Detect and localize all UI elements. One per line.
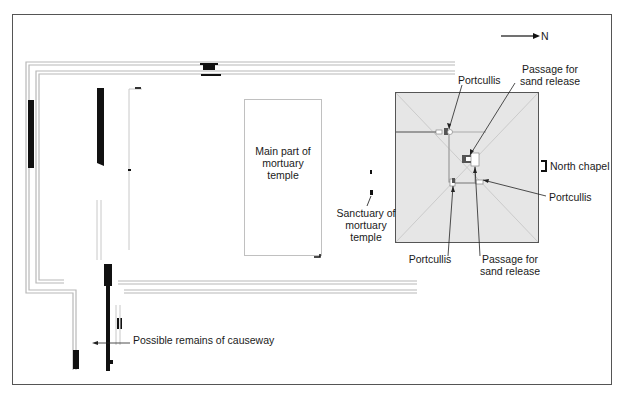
north-arrow-icon — [501, 33, 540, 39]
main-temple-label: Main part of mortuary temple — [244, 145, 322, 181]
pyramid — [396, 93, 539, 243]
solid-wall-segments — [28, 63, 221, 371]
sanctuary-arrow — [367, 196, 371, 206]
north-chapel-marker — [541, 161, 546, 171]
sanctuary-label: Sanctuary of mortuary temple — [326, 207, 406, 243]
portcullis-right-label: Portcullis — [549, 191, 609, 203]
sanctuary-marker — [370, 190, 373, 195]
compass-label: N — [541, 30, 549, 42]
portcullis-top-label: Portcullis — [458, 74, 518, 86]
causeway-label: Possible remains of causeway — [133, 334, 333, 346]
small-marker — [128, 169, 131, 171]
portcullis-bottom-label: Portcullis — [400, 253, 460, 265]
sanctuary-marker — [370, 170, 372, 174]
enclosure-wall-south — [118, 281, 417, 293]
passage-top-label: Passage for sand release — [510, 63, 590, 87]
small-marker — [135, 87, 141, 89]
passage-bottom-label: Passage for sand release — [470, 253, 550, 277]
north-chapel-label: North chapel — [550, 160, 628, 172]
